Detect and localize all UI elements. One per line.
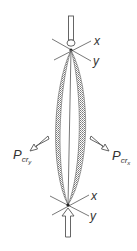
column-axis: [68, 50, 71, 205]
top-axis-label-x: x: [94, 35, 100, 47]
bottom-load-arrow: [62, 208, 74, 237]
bottom-pin-joint: [66, 203, 69, 206]
top-load-arrow: [67, 16, 75, 46]
left-lateral-arrow: [30, 136, 49, 151]
load-subsub: x: [127, 160, 130, 166]
left-critical-load-label: Pcry: [13, 148, 31, 165]
right-critical-load-label: Pcrx: [112, 149, 130, 166]
bottom-axis-label-y: y: [90, 210, 96, 222]
load-symbol: P: [112, 148, 121, 163]
bottom-axis-label-x: x: [91, 190, 97, 202]
load-symbol: P: [13, 147, 22, 162]
buckled-column-diagram: [0, 0, 137, 251]
load-subsub: y: [28, 159, 31, 165]
right-lateral-arrow: [90, 136, 109, 151]
top-axis-label-y: y: [93, 55, 99, 67]
